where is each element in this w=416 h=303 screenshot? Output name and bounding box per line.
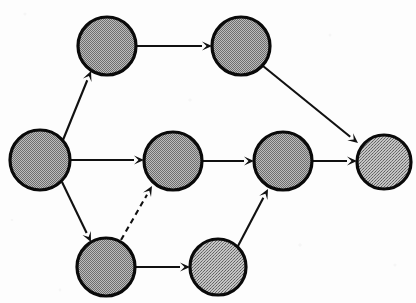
middle-right-node[interactable] (254, 132, 312, 190)
top-right-node[interactable] (212, 17, 270, 75)
top-left-node[interactable] (78, 17, 136, 75)
graph-svg (0, 0, 416, 303)
middle-node[interactable] (144, 132, 202, 190)
far-right-node[interactable] (357, 135, 411, 189)
diagram-canvas (0, 0, 416, 303)
bottom-right-node[interactable] (190, 239, 246, 295)
bottom-left-node[interactable] (77, 238, 135, 296)
left-node[interactable] (10, 130, 70, 190)
